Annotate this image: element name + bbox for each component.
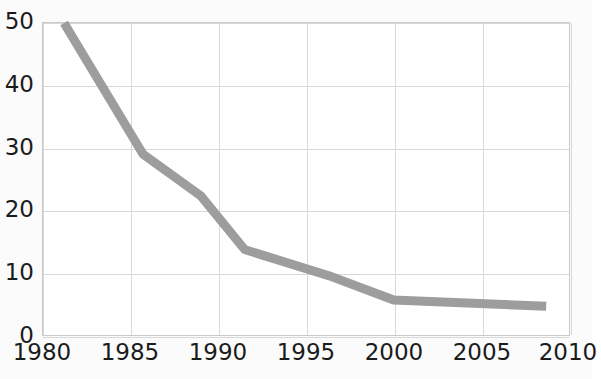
gridline-vertical: [571, 23, 572, 335]
x-tick-text: 1980: [13, 339, 72, 365]
y-tick-text: 50: [5, 8, 34, 34]
x-tick-label-1980: 1980: [0, 341, 87, 364]
plot-area: [42, 22, 570, 336]
y-tick-text: 30: [5, 134, 34, 160]
y-tick-label-40: 40: [0, 73, 34, 96]
x-tick-label-2000: 2000: [349, 341, 439, 364]
y-tick-text: 10: [5, 259, 34, 285]
data-line-series-1: [64, 23, 546, 306]
y-tick-text: 20: [5, 196, 34, 222]
x-tick-label-1990: 1990: [173, 341, 263, 364]
x-tick-text: 1990: [189, 339, 248, 365]
x-tick-text: 2000: [365, 339, 424, 365]
y-tick-label-50: 50: [0, 10, 34, 33]
x-tick-label-1985: 1985: [85, 341, 175, 364]
x-tick-label-1995: 1995: [261, 341, 351, 364]
y-tick-text: 40: [5, 71, 34, 97]
x-tick-text: 2010: [539, 339, 598, 365]
x-tick-text: 1995: [277, 339, 336, 365]
y-tick-label-10: 10: [0, 261, 34, 284]
series-layer: [43, 23, 569, 335]
x-tick-text: 2005: [453, 339, 512, 365]
y-tick-label-20: 20: [0, 198, 34, 221]
x-tick-text: 1985: [101, 339, 160, 365]
y-tick-label-30: 30: [0, 136, 34, 159]
x-tick-label-2010: 2010: [523, 341, 601, 364]
gridline-horizontal: [43, 337, 569, 338]
x-tick-label-2005: 2005: [437, 341, 527, 364]
